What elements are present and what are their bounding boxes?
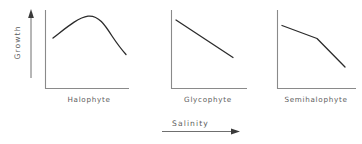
panel-label-halophyte: Halophyte	[48, 95, 130, 104]
glycophyte-line	[176, 20, 233, 58]
halophyte-curve	[53, 16, 126, 54]
y-axis-label: Growth	[13, 12, 22, 74]
growth-salinity-figure: Growth Halophyte Glycophyte Semihalophyt…	[0, 0, 362, 144]
salinity-axis-arrow	[162, 129, 240, 135]
x-axis-label: Salinity	[172, 119, 209, 128]
glycophyte-axes	[172, 10, 248, 89]
semihalophyte-axes	[278, 10, 357, 89]
growth-axis-arrow	[28, 9, 34, 78]
panel-label-glycophyte: Glycophyte	[170, 95, 246, 104]
semihalophyte-line	[282, 26, 345, 68]
halophyte-axes	[46, 10, 130, 89]
panel-label-semihalophyte: Semihalophyte	[272, 95, 360, 104]
